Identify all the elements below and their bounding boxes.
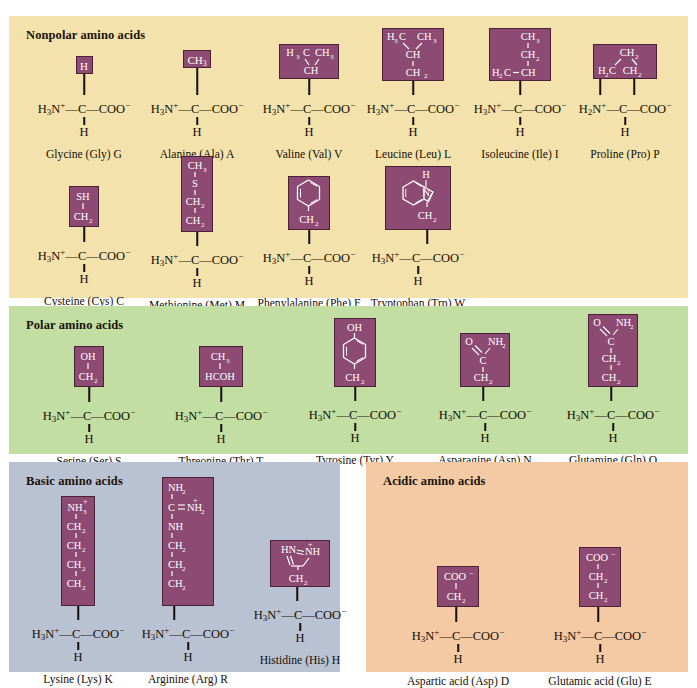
amino-acid-asparagine: O NH 2 C CH 2 H3N+—C—COO− H Asparagine (… [425,333,545,466]
svg-text:2: 2 [201,221,205,229]
svg-text:COO: COO [444,571,467,582]
alpha-hydrogen-leucine: H [353,126,473,139]
svg-text:3: 3 [433,37,437,45]
svg-text:2: 2 [89,217,93,225]
svg-text:CH: CH [79,371,94,382]
svg-text:CH: CH [602,372,617,383]
alpha-hydrogen-cysteine: H [24,273,144,286]
alpha-hydrogen-glycine: H [24,126,144,139]
svg-text:CH: CH [623,65,638,76]
alpha-hydrogen-asparagine: H [425,432,545,445]
svg-text:CH: CH [620,47,635,58]
svg-text:2: 2 [424,72,428,79]
svg-text:OH: OH [347,322,363,333]
svg-text:2: 2 [499,72,503,79]
svg-text:2: 2 [462,597,466,605]
svg-text:2: 2 [604,577,608,585]
svg-text:CH: CH [186,196,201,207]
svg-text:CH: CH [521,31,536,42]
svg-text:CH: CH [299,214,314,225]
section-title-polar: Polar amino acids [26,318,123,333]
svg-text:2: 2 [433,216,437,224]
svg-text:CH: CH [67,540,82,551]
alpha-hydrogen-isoleucine: H [460,126,580,139]
indole-ring-icon: H N CH 2 [386,167,449,228]
alpha-hydrogen-glutamic-acid: H [540,653,660,666]
amino-acid-valine: H 3 C CH 3 CH H3N+—C—COO− H Valine (Val)… [249,44,369,160]
svg-text:2: 2 [201,508,205,516]
sidechain-leucine: H 3 C CH 3 CH CH 2 [382,28,444,81]
backbone-isoleucine: H3N+—C—COO− [460,101,580,117]
svg-text:C: C [399,31,406,42]
svg-text:CH: CH [521,67,536,78]
svg-text:NH: NH [168,521,184,532]
sidechain-asparagine: O NH 2 C CH 2 [460,333,510,387]
svg-text:3: 3 [226,357,230,365]
svg-text:CH: CH [168,540,183,551]
svg-text:2: 2 [82,584,86,592]
backbone-glutamine: H3N+—C—COO− [553,407,673,423]
amino-acid-methionine: CH 3 S CH 2 CH 2 H3N+—C—COO− H Methionin… [137,156,257,311]
amino-acid-cysteine: SH CH 2 H3N+—C—COO− H Cysteine (Cys) C [24,186,144,307]
section-title-acidic: Acidic amino acids [383,474,486,489]
serine-skeleton: OH CH 2 [75,347,102,385]
phenol-ring-icon: OH CH 2 [335,319,374,385]
section-title-nonpolar: Nonpolar amino acids [26,28,145,43]
svg-text:CH: CH [188,160,203,171]
amino-acid-tryptophan: H N CH 2 H3N+—C—COO− H Tryptophan (Trp) … [358,166,478,309]
alpha-hydrogen-phenylalanine: H [249,275,369,288]
amino-acid-threonine: CH 3 HCOH H3N+—C—COO− H Threonine (Thr) … [161,346,281,467]
alpha-hydrogen-arginine: H [128,651,248,664]
svg-text:2: 2 [502,342,506,350]
alpha-hydrogen-valine: H [249,126,369,139]
sidechain-histidine: HN + NH CH 2 [270,540,330,587]
svg-text:CH: CH [417,31,432,42]
sidechain-arginine: NH 2 C + NH 2 NH CH 2 CH 2 CH 2 [162,477,214,606]
svg-text:3: 3 [83,508,87,516]
cysteine-skeleton: SH CH 2 [70,187,97,225]
svg-text:C: C [609,65,616,76]
section-title-basic: Basic amino acids [26,474,123,489]
alpha-hydrogen-methionine: H [137,277,257,290]
amino-acid-leucine: H 3 C CH 3 CH CH 2 H3N+—C—COO− H Leucine… [353,28,473,160]
alpha-hydrogen-threonine: H [161,433,281,446]
svg-text:2: 2 [304,579,308,586]
svg-text:2: 2 [604,596,608,604]
svg-text:HCOH: HCOH [205,371,235,382]
sidechain-glutamine: O NH 2 C CH 2 CH 2 [588,314,638,387]
svg-text:3: 3 [203,166,207,174]
backbone-aspartic-acid: H3N+—C—COO− [398,628,518,644]
alpha-hydrogen-aspartic-acid: H [398,653,518,666]
sidechain-aspartic-acid: COO − CH 2 [437,566,479,607]
label-proline: Proline (Pro) P [565,149,685,161]
svg-text:CH: CH [474,372,489,383]
amino-acid-arginine: NH 2 C + NH 2 NH CH 2 CH 2 CH 2 [128,477,248,685]
label-histidine: Histidine (His) H [240,655,360,667]
svg-text:CH: CH [211,351,226,362]
alpha-hydrogen-histidine: H [240,632,360,645]
svg-text:CH: CH [521,49,536,60]
svg-text:3: 3 [394,37,398,45]
svg-text:2: 2 [182,565,186,573]
svg-text:CH: CH [589,571,604,582]
backbone-glycine: H3N+—C—COO− [24,101,144,117]
group-ch3: CH3 [184,54,210,69]
amino-acid-lysine: NH 3 + CH 2 CH 2 CH 2 CH 2 H3N+—C—COO− H… [18,496,138,685]
svg-text:2: 2 [617,378,621,386]
sidechain-lysine: NH 3 + CH 2 CH 2 CH 2 CH 2 [61,496,95,606]
label-lysine: Lysine (Lys) K [18,674,138,686]
threonine-skeleton: CH 3 HCOH [200,347,241,385]
svg-text:CH: CH [304,65,319,76]
glutamine-skeleton: O NH 2 C CH 2 CH 2 [589,315,636,385]
backbone-valine: H3N+—C—COO− [249,101,369,117]
svg-text:NH: NH [67,502,83,513]
svg-text:C: C [504,67,511,78]
amino-acid-serine: OH CH 2 H3N+—C—COO− H Serine (Ser) S [29,346,149,467]
sidechain-methionine: CH 3 S CH 2 CH 2 [181,156,213,232]
svg-text:O: O [593,317,601,328]
svg-text:OH: OH [80,351,96,362]
svg-text:H: H [422,169,430,180]
svg-text:2: 2 [489,378,493,386]
alpha-hydrogen-tryptophan: H [358,275,478,288]
svg-text:3: 3 [536,37,540,45]
